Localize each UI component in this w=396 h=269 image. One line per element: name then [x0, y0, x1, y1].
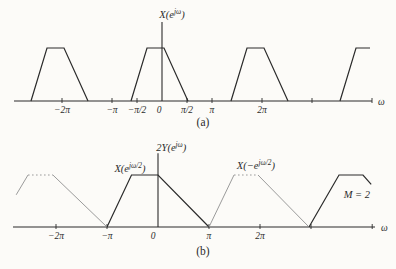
- tick-label: 2π: [257, 105, 267, 115]
- annotation-label: X(−ejω/2): [236, 158, 276, 172]
- annotation-label: M = 2: [343, 189, 371, 200]
- annotation-label: X(ejω/2): [113, 161, 146, 175]
- math-fragment: 2Y(e: [156, 142, 176, 154]
- math-superscript: jω: [173, 7, 181, 16]
- omega-axis-label: ω: [378, 97, 385, 107]
- caption-a: (a): [197, 116, 210, 128]
- tick-label: π: [207, 231, 212, 241]
- spectrum-segment: [131, 48, 188, 101]
- math-fragment: X(−e: [236, 160, 259, 172]
- math-fragment: ): [182, 142, 187, 154]
- tick-label: 0: [157, 105, 162, 115]
- math-superscript: jω: [175, 140, 183, 149]
- tick-label: 0: [151, 231, 156, 241]
- spectrum-segment: [209, 175, 234, 227]
- math-fragment: ): [270, 160, 275, 172]
- tick-label: −2π: [54, 105, 70, 115]
- plot-b-downsampled-spectrum: ω−2π−π0π2π2Y(ejω)X(ejω/2)X(−ejω/2)M = 2: [13, 140, 388, 241]
- caption-b: (b): [196, 245, 209, 257]
- spectrum-segment: [258, 175, 309, 227]
- tick-label: −π: [101, 231, 112, 241]
- spectrum-segment: [309, 175, 371, 227]
- figure: ω−2π−π−π/20π/2π2πX(ejω) ω−2π−π0π2π2Y(ejω…: [0, 0, 396, 269]
- annotation-label: X(ejω): [158, 7, 185, 21]
- spectrum-segment: [231, 48, 288, 101]
- tick-label: −π: [106, 105, 117, 115]
- math-fragment: M = 2: [343, 189, 371, 200]
- spectrum-segment: [53, 175, 107, 227]
- spectrum-segment: [31, 48, 88, 101]
- math-superscript: jω/2: [258, 158, 272, 167]
- spectra-figure-svg: ω−2π−π−π/20π/2π2πX(ejω) ω−2π−π0π2π2Y(ejω…: [0, 0, 396, 269]
- spectrum-segment: [340, 48, 370, 101]
- math-fragment: X(e: [158, 9, 174, 21]
- annotation-label: 2Y(ejω): [156, 140, 186, 154]
- tick-label: π/2: [181, 105, 193, 115]
- math-fragment: X(e: [113, 163, 129, 175]
- plot-a-periodic-spectrum: ω−2π−π−π/20π/2π2πX(ejω): [14, 7, 385, 115]
- tick-label: π: [210, 105, 215, 115]
- omega-axis-label: ω: [381, 223, 388, 233]
- tick-label: −2π: [48, 231, 64, 241]
- math-superscript: jω/2: [128, 161, 142, 170]
- math-fragment: ): [180, 9, 185, 21]
- tick-label: −π/2: [128, 105, 147, 115]
- tick-label: 2π: [255, 231, 265, 241]
- spectrum-segment: [16, 175, 28, 195]
- math-fragment: ): [141, 163, 146, 175]
